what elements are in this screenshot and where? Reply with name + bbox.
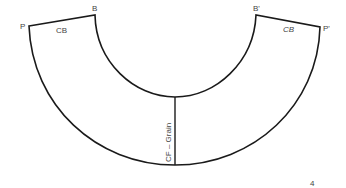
pattern-diagram: P B B' P' CB CB CF – Grain 4 (0, 0, 346, 188)
edge-label-cb-left: CB (56, 26, 67, 35)
page-number: 4 (310, 179, 315, 188)
point-label-p-prime: P' (323, 24, 330, 33)
point-label-p: P (20, 22, 25, 31)
point-label-b-prime: B' (253, 4, 260, 13)
point-label-b: B (92, 4, 97, 13)
edge-label-cb-right: CB (283, 25, 295, 34)
grain-line-label: CF – Grain (164, 123, 173, 162)
